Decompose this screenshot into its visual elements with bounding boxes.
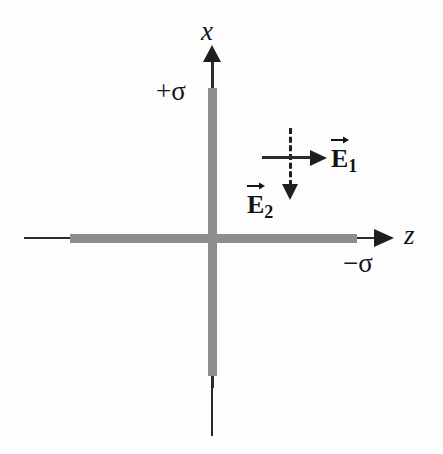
arrow-down-icon bbox=[282, 184, 298, 200]
e1-symbol-group: E bbox=[331, 146, 348, 172]
e2-field-label: E 2 bbox=[247, 192, 273, 221]
x-axis-label: x bbox=[201, 18, 213, 45]
negative-sigma-label: −σ bbox=[343, 250, 373, 277]
physics-diagram: x z +σ −σ E 1 E 2 bbox=[0, 0, 443, 454]
x-axis-shaft-lower bbox=[211, 370, 213, 436]
vertical-sheet bbox=[208, 88, 217, 376]
positive-sigma-label: +σ bbox=[156, 78, 186, 105]
arrow-up-icon bbox=[203, 45, 221, 62]
arrow-right-icon bbox=[310, 150, 327, 166]
arrow-right-icon bbox=[374, 229, 394, 247]
e1-field-label: E 1 bbox=[331, 146, 357, 175]
e1-subscript: 1 bbox=[348, 156, 357, 176]
vector-arrow-icon bbox=[246, 180, 266, 190]
e1-field-shaft bbox=[262, 156, 312, 159]
horizontal-sheet bbox=[70, 234, 357, 243]
e2-subscript: 2 bbox=[264, 202, 273, 222]
z-axis-label: z bbox=[404, 222, 415, 249]
e1-symbol: E bbox=[331, 144, 348, 173]
e2-symbol: E bbox=[247, 190, 264, 219]
e2-symbol-group: E bbox=[247, 192, 264, 218]
vector-arrow-icon bbox=[330, 134, 350, 144]
